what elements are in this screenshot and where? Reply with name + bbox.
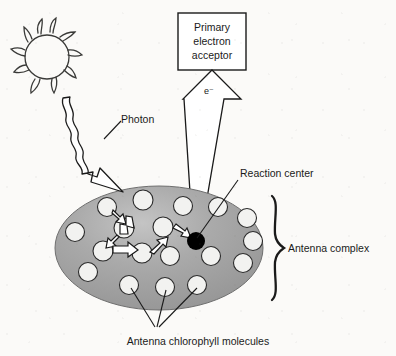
electron-label: e⁻: [204, 86, 214, 96]
chlorophyll-molecule: [174, 197, 193, 216]
reaction-center-label: Reaction center: [240, 167, 314, 179]
chlorophyll-molecule: [120, 276, 139, 295]
chlorophyll-molecule: [132, 243, 152, 263]
acceptor-label-line1: Primary: [194, 21, 231, 33]
chlorophyll-molecule: [188, 276, 207, 295]
chlorophyll-molecule: [161, 247, 180, 266]
photon-label: Photon: [121, 113, 154, 125]
chlorophyll-molecule: [238, 209, 257, 228]
diagram-canvas: Primary electron acceptor e⁻: [0, 0, 396, 356]
reaction-center-dot: [187, 232, 205, 250]
chlorophyll-molecule: [66, 223, 85, 242]
photosystem-diagram: Primary electron acceptor e⁻: [0, 0, 396, 356]
chlorophyll-molecule: [133, 190, 153, 210]
antenna-chlorophyll-label: Antenna chlorophyll molecules: [127, 335, 269, 347]
chlorophyll-molecule: [244, 232, 263, 251]
acceptor-label-line3: acceptor: [192, 49, 233, 61]
chlorophyll-molecule: [153, 217, 173, 237]
primary-electron-acceptor-box: Primary electron acceptor: [178, 13, 246, 70]
chlorophyll-molecule: [209, 198, 228, 217]
chlorophyll-molecule: [79, 263, 98, 282]
antenna-complex-label: Antenna complex: [288, 242, 370, 254]
chlorophyll-molecule: [234, 254, 253, 273]
chlorophyll-molecule: [202, 247, 221, 266]
acceptor-label-line2: electron: [193, 35, 231, 47]
